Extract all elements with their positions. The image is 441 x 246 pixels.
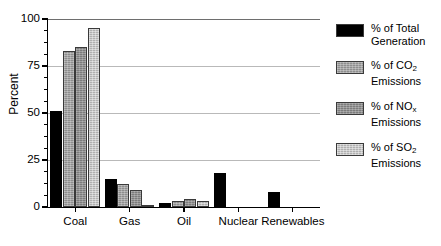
bar [268,192,280,207]
y-tick-minor [44,171,48,172]
legend-label-line2: Emissions [371,75,421,88]
y-tick-major [42,65,48,66]
legend-label: % of SO2Emissions [371,141,421,170]
legend-label-line1: % of NOx [371,100,421,116]
bar [184,199,196,207]
bar [197,201,209,207]
legend-label-line1: % of Total [371,22,425,35]
y-tick-major [42,18,48,19]
y-tick-minor [44,183,48,184]
legend-swatch [336,24,364,37]
y-tick-minor [44,136,48,137]
x-axis-tick-label: Renewables [261,215,324,227]
bar [88,28,100,207]
x-tick [292,207,293,212]
bar-group [105,19,155,207]
legend-item: % of CO2Emissions [336,59,441,88]
y-tick-minor [44,124,48,125]
bar [75,47,87,207]
legend-item: % of SO2Emissions [336,141,441,170]
bar [142,205,154,207]
bar-group [268,19,318,207]
legend-label-line1: % of SO2 [371,141,421,157]
legend-label-subscript: x [413,105,417,114]
y-tick-major [42,159,48,160]
legend-label-line2: Generation [371,35,425,48]
legend-label: % of TotalGeneration [371,22,425,47]
y-tick-major [42,112,48,113]
y-axis-tick-label: 50 [27,107,40,119]
y-tick-minor [44,89,48,90]
legend-swatch [336,61,364,74]
legend: % of TotalGeneration% of CO2Emissions% o… [336,22,441,181]
legend-item: % of NOxEmissions [336,100,441,129]
y-axis-title: Percent [7,0,21,188]
y-axis-tick-label: 75 [27,60,40,72]
bar-group [50,19,100,207]
bar [172,201,184,207]
x-tick [183,207,184,212]
plot-area: 0255075100 CoalGasOilNuclearRenewables [47,19,320,208]
y-tick-minor [44,77,48,78]
legend-label-subscript: 2 [413,64,417,73]
legend-label-line2: Emissions [371,116,421,129]
y-tick-major [42,206,48,207]
x-axis-tick-label: Nuclear [219,215,259,227]
legend-label-subscript: 2 [412,145,416,154]
legend-label-line1: % of CO2 [371,59,421,75]
bar-group [214,19,264,207]
legend-item: % of TotalGeneration [336,22,441,47]
y-tick-minor [44,195,48,196]
x-axis-tick-label: Gas [119,215,140,227]
bar-group [159,19,209,207]
x-axis-tick-label: Coal [63,215,87,227]
legend-swatch [336,143,364,156]
y-tick-minor [44,42,48,43]
bar [105,179,117,207]
bar [130,190,142,207]
y-axis-tick-label: 25 [27,154,40,166]
y-axis-title-text: Percent [7,73,21,114]
bar [63,51,75,207]
x-tick [129,207,130,212]
chart-figure: 0255075100 CoalGasOilNuclearRenewables P… [0,0,441,246]
y-tick-minor [44,30,48,31]
bar [50,111,62,207]
legend-label: % of CO2Emissions [371,59,421,88]
bar [159,203,171,207]
legend-swatch [336,102,364,115]
bar [117,184,129,207]
y-axis-tick-label: 0 [34,201,40,213]
y-tick-minor [44,148,48,149]
x-axis-tick-label: Oil [177,215,191,227]
y-axis-tick-label: 100 [21,13,40,25]
y-tick-minor [44,101,48,102]
x-tick [75,207,76,212]
x-tick [238,207,239,212]
bar [214,173,226,207]
y-tick-minor [44,54,48,55]
legend-label: % of NOxEmissions [371,100,421,129]
legend-label-line2: Emissions [371,157,421,170]
